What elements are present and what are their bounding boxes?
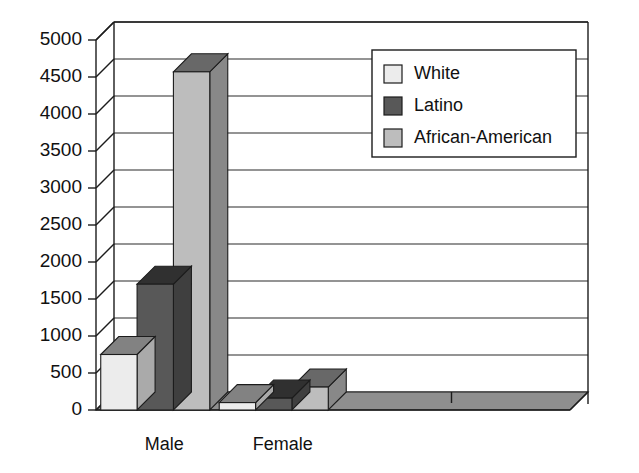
legend-item[interactable]: Latino — [384, 95, 463, 115]
y-axis-tick-label: 0 — [71, 398, 82, 419]
chart-container: 5000450040003500300025002000150010005000… — [0, 0, 639, 473]
y-axis-tick-label: 4500 — [40, 65, 82, 86]
legend-swatch — [384, 129, 402, 147]
legend-label: African-American — [414, 127, 552, 147]
bar-side-face — [210, 54, 228, 410]
y-axis-tick-label: 500 — [50, 361, 82, 382]
legend-swatch — [384, 65, 402, 83]
y-axis-tick-label: 4000 — [40, 102, 82, 123]
chart-legend[interactable]: WhiteLatinoAfrican-American — [372, 50, 576, 157]
y-axis-tick-label: 1500 — [40, 287, 82, 308]
y-axis-tick-label: 3500 — [40, 139, 82, 160]
x-axis-category-label: Male — [145, 434, 184, 454]
y-axis-tick-label: 2500 — [40, 213, 82, 234]
bar-side-face — [173, 266, 191, 410]
legend-item[interactable]: White — [384, 63, 460, 83]
x-axis-category-label: Female — [253, 434, 313, 454]
y-axis-tick-label: 1000 — [40, 324, 82, 345]
bar — [101, 337, 155, 411]
legend-label: White — [414, 63, 460, 83]
legend-label: Latino — [414, 95, 463, 115]
bar-front-face — [101, 355, 137, 411]
bar-chart: 5000450040003500300025002000150010005000… — [0, 0, 639, 473]
y-axis-tick-label: 5000 — [40, 28, 82, 49]
y-axis-tick-label: 3000 — [40, 176, 82, 197]
bar-front-face — [219, 403, 255, 410]
y-axis-tick-label: 2000 — [40, 250, 82, 271]
legend-swatch — [384, 97, 402, 115]
